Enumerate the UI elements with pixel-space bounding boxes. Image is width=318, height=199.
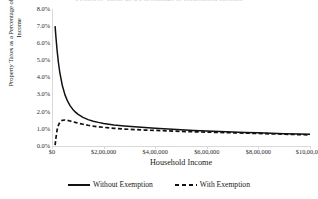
x-axis-tick-label: $8,00,000: [246, 148, 271, 156]
y-axis-tick-label: 6.0%: [24, 40, 50, 46]
legend-swatch-solid-line-icon: [68, 184, 90, 186]
plot-svg: [52, 9, 310, 146]
legend-item[interactable]: Without Exemption: [68, 180, 153, 189]
y-axis-tick-label: 1.0%: [24, 126, 50, 132]
x-axis-tick-label: $10,00,000: [296, 148, 318, 156]
y-axis-tick-label: 5.0%: [24, 57, 50, 63]
x-axis-tick-mark: [155, 146, 156, 149]
x-axis-tick-labels: $0$2,00,000$4,00,000$6,00,000$8,00,000$1…: [52, 148, 310, 158]
legend-label: With Exemption: [200, 180, 250, 189]
y-axis-title-line1: Property Taxes as a Percentage of Househ…: [7, 0, 14, 87]
x-axis-title: Household Income: [52, 158, 310, 168]
y-axis-tick-label: 4.0%: [24, 74, 50, 80]
series-line-without-exemption: [55, 26, 310, 134]
x-axis-tick-label: $2,00,000: [91, 148, 116, 156]
chart-legend: Without ExemptionWith Exemption: [0, 180, 318, 189]
x-axis-tick-mark: [104, 146, 105, 149]
x-axis-tick-mark: [52, 146, 53, 149]
x-axis-tick-mark: [207, 146, 208, 149]
legend-label: Without Exemption: [93, 180, 153, 189]
legend-item[interactable]: With Exemption: [175, 180, 250, 189]
y-axis-tick-label: 8.0%: [24, 6, 50, 12]
plot-area: [52, 9, 310, 146]
series-line-with-exemption: [55, 120, 310, 145]
x-axis-tick-mark: [310, 146, 311, 149]
y-axis-tick-label: 3.0%: [24, 91, 50, 97]
y-axis-tick-labels: 8.0%7.0%6.0%5.0%4.0%3.0%2.0%1.0%0.0%: [22, 0, 50, 199]
chart-container: Property Taxes as a Percentage of Househ…: [0, 0, 318, 199]
x-axis-line: [52, 146, 310, 147]
legend-swatch-dashed-line-icon: [175, 184, 197, 186]
x-axis-tick-label: $4,00,000: [143, 148, 168, 156]
x-axis-tick-mark: [258, 146, 259, 149]
y-axis-tick-label: 7.0%: [24, 23, 50, 29]
y-axis-tick-label: 2.0%: [24, 109, 50, 115]
y-axis-title: Property Taxes as a Percentage of Househ…: [7, 0, 23, 103]
y-axis-tick-label: 0.0%: [24, 143, 50, 149]
x-axis-tick-label: $0: [49, 148, 55, 156]
x-axis-tick-label: $6,00,000: [194, 148, 219, 156]
